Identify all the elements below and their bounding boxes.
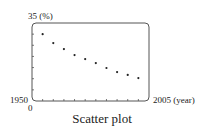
data-point bbox=[105, 67, 107, 69]
plot-frame bbox=[32, 23, 149, 101]
data-point bbox=[52, 42, 54, 44]
scatter-plot-figure: 35 (%) 1950 0 2005 (year) Scatter plot bbox=[0, 0, 204, 133]
data-point bbox=[42, 33, 44, 35]
data-point bbox=[116, 71, 118, 73]
data-point bbox=[84, 58, 86, 60]
data-point bbox=[63, 48, 65, 50]
chart-caption: Scatter plot bbox=[0, 112, 204, 125]
y-axis-max-label: 35 (%) bbox=[28, 12, 53, 21]
data-point bbox=[127, 74, 129, 76]
data-point bbox=[95, 62, 97, 64]
x-axis-min-label: 1950 bbox=[10, 96, 28, 105]
x-axis-max-label: 2005 (year) bbox=[153, 96, 195, 105]
data-point bbox=[73, 54, 75, 56]
data-point bbox=[137, 77, 139, 79]
